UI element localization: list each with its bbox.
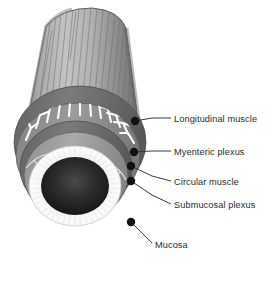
label-submucosal-plexus: Submucosal plexus bbox=[174, 200, 255, 210]
callout-dot-myenteric-plexus bbox=[130, 148, 138, 156]
figure-canvas: Longitudinal muscleMyenteric plexusCircu… bbox=[0, 0, 278, 283]
intestinal-wall-illustration bbox=[0, 0, 278, 283]
label-myenteric-plexus: Myenteric plexus bbox=[174, 147, 245, 157]
label-mucosa: Mucosa bbox=[155, 240, 188, 250]
leader-line-mucosa bbox=[131, 222, 152, 243]
callout-dot-circular-muscle bbox=[127, 162, 135, 170]
callout-dot-mucosa bbox=[127, 218, 135, 226]
mucosa-ring bbox=[29, 146, 121, 226]
label-longitudinal-muscle: Longitudinal muscle bbox=[174, 114, 257, 124]
callout-dot-longitudinal-muscle bbox=[131, 117, 139, 125]
label-circular-muscle: Circular muscle bbox=[174, 177, 239, 187]
leader-line-submucosal-plexus bbox=[131, 181, 171, 204]
callout-dot-submucosal-plexus bbox=[127, 177, 135, 185]
lumen bbox=[41, 157, 109, 215]
